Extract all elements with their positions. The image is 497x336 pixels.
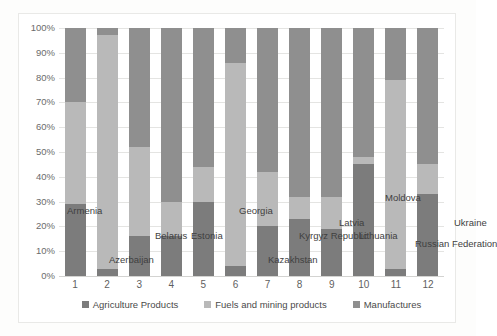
bar-segment[interactable] [289, 219, 310, 276]
bar-column[interactable] [129, 28, 150, 276]
legend-swatch-icon [353, 301, 360, 308]
legend-swatch-icon [82, 301, 89, 308]
bar-segment[interactable] [97, 269, 118, 276]
country-data-label: Estonia [191, 230, 223, 241]
y-axis-tick-label: 90% [21, 48, 55, 58]
bar-segment[interactable] [417, 194, 438, 276]
y-axis-tick-label: 40% [21, 172, 55, 182]
y-axis: 100%90%80%70%60%50%40%30%20%10%0% [17, 28, 55, 276]
y-axis-tick-label: 20% [21, 221, 55, 231]
country-data-label: Kazakhstan [268, 254, 318, 265]
country-data-label: Lithuania [359, 230, 398, 241]
gridline [59, 276, 444, 277]
y-axis-tick-label: 50% [21, 147, 55, 157]
bar-segment[interactable] [385, 269, 406, 276]
bar-segment[interactable] [161, 28, 182, 202]
bar-segment[interactable] [65, 28, 86, 102]
x-axis-tick-label: 2 [94, 279, 120, 291]
x-axis-tick-label: 7 [255, 279, 281, 291]
chart-legend: Agriculture ProductsFuels and mining pro… [59, 296, 444, 312]
y-axis-tick-label: 0% [21, 271, 55, 281]
y-axis-tick-label: 10% [21, 246, 55, 256]
country-data-label: Moldova [385, 192, 421, 203]
y-axis-tick-label: 70% [21, 97, 55, 107]
bar-column[interactable] [65, 28, 86, 276]
bar-segment[interactable] [97, 35, 118, 268]
bar-segment[interactable] [225, 63, 246, 266]
bar-segment[interactable] [289, 28, 310, 197]
y-axis-tick-label: 80% [21, 73, 55, 83]
x-axis-tick-label: 4 [158, 279, 184, 291]
x-axis-tick-label: 11 [383, 279, 409, 291]
y-axis-tick-label: 30% [21, 197, 55, 207]
x-axis: 123456789101112 [59, 279, 444, 293]
bar-segment[interactable] [353, 157, 374, 164]
x-axis-tick-label: 12 [415, 279, 441, 291]
bar-segment[interactable] [257, 172, 278, 227]
bar-segment[interactable] [193, 28, 214, 167]
legend-label: Manufactures [364, 299, 422, 310]
bar-segment[interactable] [129, 147, 150, 236]
bar-segment[interactable] [385, 28, 406, 80]
x-axis-tick-label: 3 [126, 279, 152, 291]
country-data-label: Kyrgyz Republic [299, 230, 368, 241]
bar-segment[interactable] [193, 167, 214, 202]
bar-column[interactable] [97, 28, 118, 276]
legend-item[interactable]: Fuels and mining products [204, 299, 326, 310]
country-data-label: Russian Federation [415, 238, 497, 249]
x-axis-tick-label: 10 [351, 279, 377, 291]
bar-segment[interactable] [161, 236, 182, 276]
x-axis-tick-label: 8 [287, 279, 313, 291]
legend-label: Fuels and mining products [215, 299, 326, 310]
x-axis-tick-label: 5 [190, 279, 216, 291]
bar-segment[interactable] [321, 28, 342, 197]
bar-segment[interactable] [257, 28, 278, 172]
legend-swatch-icon [204, 301, 211, 308]
x-axis-tick-label: 6 [222, 279, 248, 291]
bar-segment[interactable] [225, 266, 246, 276]
country-data-label: Azerbaijan [109, 254, 154, 265]
x-axis-tick-label: 1 [62, 279, 88, 291]
plot-area: ArmeniaAzerbaijanBelarusEstoniaGeorgiaKa… [59, 28, 444, 276]
bar-segment[interactable] [129, 28, 150, 147]
country-data-label: Belarus [155, 230, 187, 241]
bar-segment[interactable] [417, 164, 438, 194]
y-axis-tick-label: 100% [21, 23, 55, 33]
country-data-label: Latvia [339, 217, 364, 228]
bar-segment[interactable] [65, 102, 86, 204]
bar-segment[interactable] [257, 226, 278, 276]
bar-segment[interactable] [289, 197, 310, 219]
y-axis-tick-label: 60% [21, 122, 55, 132]
bar-segment[interactable] [225, 28, 246, 63]
x-axis-tick-label: 9 [319, 279, 345, 291]
country-data-label: Ukraine [454, 217, 487, 228]
bar-segment[interactable] [97, 28, 118, 35]
country-data-label: Armenia [67, 205, 102, 216]
bar-segment[interactable] [353, 28, 374, 157]
legend-label: Agriculture Products [93, 299, 179, 310]
legend-item[interactable]: Agriculture Products [82, 299, 179, 310]
bar-column[interactable] [225, 28, 246, 276]
bar-segment[interactable] [417, 28, 438, 164]
legend-item[interactable]: Manufactures [353, 299, 422, 310]
country-data-label: Georgia [239, 205, 273, 216]
bar-column[interactable] [257, 28, 278, 276]
